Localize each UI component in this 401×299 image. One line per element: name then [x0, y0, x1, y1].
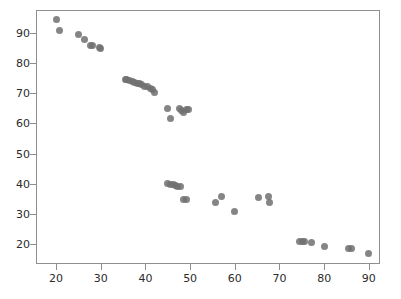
x-tick-label: 70 — [264, 273, 294, 284]
x-tick-mark — [190, 264, 191, 270]
x-tick-mark — [279, 264, 280, 270]
x-tick-label: 30 — [86, 273, 116, 284]
x-tick-label: 60 — [220, 273, 250, 284]
x-axis: 2030405060708090 — [0, 0, 401, 299]
x-tick-mark — [56, 264, 57, 270]
x-tick-label: 40 — [130, 273, 160, 284]
x-tick-mark — [145, 264, 146, 270]
x-tick-label: 50 — [175, 273, 205, 284]
x-tick-mark — [369, 264, 370, 270]
x-tick-label: 20 — [41, 273, 71, 284]
x-tick-label: 90 — [354, 273, 384, 284]
x-tick-mark — [101, 264, 102, 270]
x-tick-label: 80 — [309, 273, 339, 284]
x-tick-mark — [324, 264, 325, 270]
x-tick-mark — [235, 264, 236, 270]
scatter-chart-figure: 2030405060708090 2030405060708090 — [0, 0, 401, 299]
